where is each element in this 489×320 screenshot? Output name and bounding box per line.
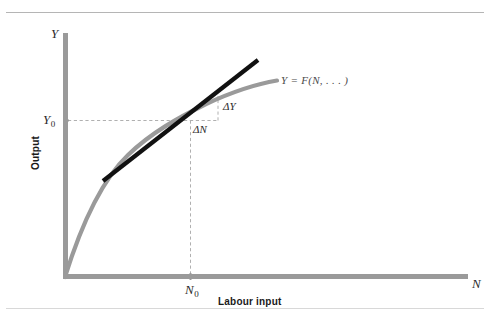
y0-base: Y xyxy=(43,112,50,127)
n0-base: N xyxy=(185,282,194,297)
x-axis-title: Labour input xyxy=(218,297,282,307)
x-axis-letter: N xyxy=(472,277,481,290)
axes-group xyxy=(63,33,468,278)
figure-canvas: Y N Y0 N0 ΔY ΔN Y = F(N, . . . ) Output … xyxy=(0,0,489,320)
y0-subscript: 0 xyxy=(51,119,56,129)
curve-equation-label: Y = F(N, . . . ) xyxy=(281,75,348,86)
y-axis-letter: Y xyxy=(51,27,58,40)
delta-n-text: ΔN xyxy=(193,123,207,135)
y-axis-title: Output xyxy=(31,136,41,170)
plot-area xyxy=(0,0,489,320)
y0-tick-label: Y0 xyxy=(43,113,55,126)
production-function-curve xyxy=(65,81,277,278)
tick-marks-group xyxy=(63,121,191,281)
delta-n-label: ΔN xyxy=(193,124,207,135)
n0-tick-label: N0 xyxy=(185,283,198,296)
delta-y-text: ΔY xyxy=(223,100,236,112)
delta-y-label: ΔY xyxy=(223,101,236,112)
n0-subscript: 0 xyxy=(194,289,199,299)
